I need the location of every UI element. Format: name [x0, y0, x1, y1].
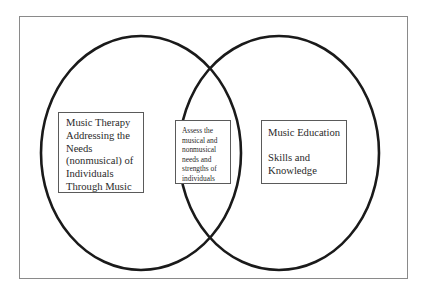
music-education-line-2: Knowledge: [268, 165, 346, 178]
music-education-label-box: Music Education Skills and Knowledge: [261, 120, 347, 184]
music-therapy-line-4: (nonmusical) of: [66, 155, 143, 168]
intersection-line-6: individuals: [182, 174, 230, 184]
music-education-title: Music Education: [268, 127, 346, 140]
intersection-line-5: strengths of: [182, 164, 230, 174]
intersection-line-1: Assess the: [182, 126, 230, 136]
music-therapy-line-2: Addressing the: [66, 130, 143, 143]
music-therapy-label-box: Music Therapy Addressing the Needs (nonm…: [58, 112, 144, 193]
intersection-label-box: Assess the musical and nonmusical needs …: [175, 120, 231, 184]
music-education-line-1: Skills and: [268, 152, 346, 165]
intersection-line-3: nonmusical: [182, 145, 230, 155]
music-therapy-line-3: Needs: [66, 143, 143, 156]
music-therapy-line-5: Individuals: [66, 168, 143, 181]
intersection-line-2: musical and: [182, 136, 230, 146]
intersection-line-4: needs and: [182, 155, 230, 165]
music-therapy-line-1: Music Therapy: [66, 117, 143, 130]
spacer: [268, 140, 346, 153]
music-therapy-line-6: Through Music: [66, 181, 143, 194]
